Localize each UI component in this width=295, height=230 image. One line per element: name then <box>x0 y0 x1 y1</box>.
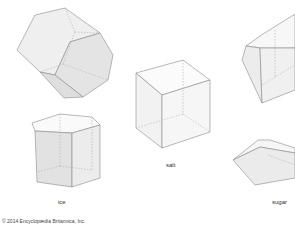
ice-crystal-tilted <box>17 8 113 98</box>
salt-label: salt <box>166 162 175 168</box>
sugar-crystal-bottom <box>233 140 295 185</box>
copyright-notice: © 2014 Encyclopædia Britannica, Inc. <box>2 218 85 224</box>
sugar-crystal-top <box>242 14 295 103</box>
sugar-label: sugar <box>272 199 287 205</box>
ice-label: ice <box>58 199 66 205</box>
ice-crystal-hexagonal <box>32 114 100 187</box>
crystal-shapes-illustration <box>0 0 295 230</box>
salt-crystal-cube <box>136 60 210 148</box>
